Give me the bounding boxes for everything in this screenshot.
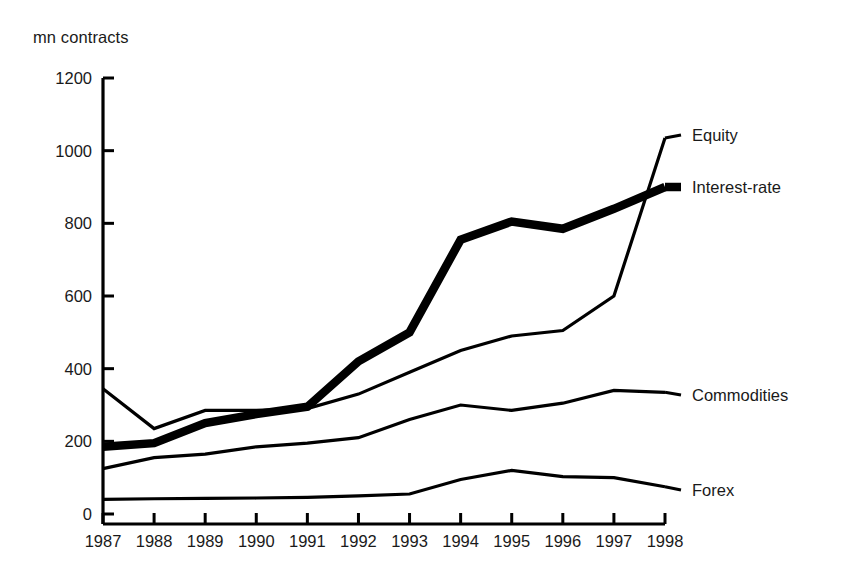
x-axis-tick-label: 1989 <box>187 532 224 551</box>
series-label-commodities: Commodities <box>692 386 788 405</box>
series-line-forex <box>103 470 665 499</box>
x-axis-tick-label: 1991 <box>289 532 326 551</box>
y-axis-tick-label: 800 <box>64 214 92 233</box>
x-axis-tick-label: 1995 <box>493 532 530 551</box>
x-axis-tick-label: 1994 <box>442 532 479 551</box>
x-axis-tick-label: 1997 <box>596 532 633 551</box>
chart-container: mn contracts 020040060080010001200 19871… <box>0 0 853 586</box>
x-axis-tick-label: 1990 <box>238 532 275 551</box>
x-axis-tick-label: 1987 <box>85 532 122 551</box>
chart-series-lines <box>103 138 665 500</box>
y-axis-tick-label: 1200 <box>55 69 92 88</box>
y-axis-tick-label: 400 <box>64 359 92 378</box>
y-axis-tick-label: 0 <box>83 505 92 524</box>
x-axis-tick-label: 1996 <box>544 532 581 551</box>
y-axis-tick-label: 200 <box>64 432 92 451</box>
series-leader-equity <box>665 135 681 138</box>
x-axis-tick-label: 1992 <box>340 532 377 551</box>
x-axis-tick-label: 1993 <box>391 532 428 551</box>
y-axis-tick-label: 600 <box>64 287 92 306</box>
series-leader-commodities <box>665 392 681 395</box>
chart-axes <box>103 78 665 524</box>
x-axis-tick-label: 1988 <box>136 532 173 551</box>
y-axis-tick-label: 1000 <box>55 141 92 160</box>
chart-label-leaders <box>665 135 681 490</box>
series-label-forex: Forex <box>692 481 734 500</box>
x-axis-tick-label: 1998 <box>647 532 684 551</box>
series-label-equity: Equity <box>692 126 738 145</box>
series-leader-forex <box>665 487 681 490</box>
series-line-equity <box>103 138 665 429</box>
series-label-interest-rate: Interest-rate <box>692 178 781 197</box>
